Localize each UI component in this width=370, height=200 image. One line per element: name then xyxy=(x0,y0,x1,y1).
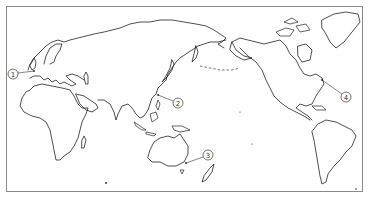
pacific-island xyxy=(105,182,107,184)
tasmania xyxy=(180,170,184,174)
greenland-coast xyxy=(322,12,360,48)
world-map: 1 2 3 4 xyxy=(0,0,370,200)
mediterranean-coast xyxy=(30,74,84,86)
britain-coast xyxy=(30,58,36,70)
japan-coast xyxy=(162,60,174,82)
marker-4: 4 xyxy=(321,79,351,102)
sumatra xyxy=(134,122,146,130)
pacific-island xyxy=(251,143,252,144)
europe-coast xyxy=(28,20,226,70)
australia-coast xyxy=(148,134,188,166)
marker-1-label: 1 xyxy=(11,71,15,79)
pacific-island xyxy=(239,111,240,112)
marker-3: 3 xyxy=(185,150,213,164)
arabia-coast xyxy=(76,94,98,112)
date-line-dashed xyxy=(200,66,240,70)
philippines xyxy=(156,100,160,110)
madagascar-coast xyxy=(82,136,86,148)
caspian-sea xyxy=(84,72,88,84)
new-zealand-coast xyxy=(202,164,214,182)
pacific-island xyxy=(355,188,357,190)
south-asia-coast xyxy=(98,80,166,120)
continents xyxy=(20,12,360,190)
java xyxy=(146,132,156,136)
kamchatka-coast xyxy=(192,46,198,62)
marker-2-label: 2 xyxy=(176,100,180,108)
alaska-coast xyxy=(230,42,252,60)
south-america-coast xyxy=(312,120,356,184)
north-america-coast xyxy=(232,38,324,120)
marker-2: 2 xyxy=(157,94,183,108)
hudson-bay xyxy=(298,44,312,62)
arctic-islands xyxy=(276,18,310,36)
borneo xyxy=(150,112,158,122)
marker-4-label: 4 xyxy=(344,94,349,102)
new-guinea xyxy=(172,126,190,132)
africa-coast xyxy=(20,84,88,160)
marker-3-label: 3 xyxy=(206,152,210,160)
scandinavia-coast xyxy=(44,44,62,64)
cuba xyxy=(312,106,326,110)
